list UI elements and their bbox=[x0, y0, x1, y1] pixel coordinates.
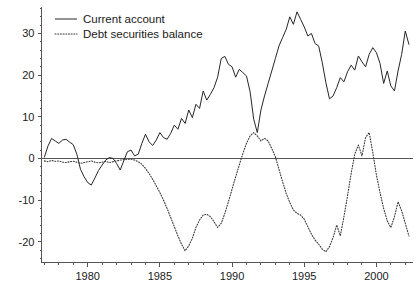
x-tick-label: 1980 bbox=[75, 270, 99, 282]
legend-label-1: Current account bbox=[83, 13, 166, 25]
y-tick-label: 30 bbox=[22, 27, 34, 39]
y-tick-label: 20 bbox=[22, 69, 34, 81]
y-tick-label: -20 bbox=[19, 236, 35, 248]
plot-background bbox=[0, 0, 419, 291]
legend-label-2: Debt securities balance bbox=[83, 28, 203, 40]
x-tick-label: 1990 bbox=[220, 270, 244, 282]
x-tick-label: 1995 bbox=[292, 270, 316, 282]
y-tick-label: 10 bbox=[22, 111, 34, 123]
line-chart: -20-100102030 19801985199019952000 Curre… bbox=[0, 0, 419, 291]
chart-container: -20-100102030 19801985199019952000 Curre… bbox=[0, 0, 419, 291]
x-tick-label: 1985 bbox=[148, 270, 172, 282]
y-tick-label: 0 bbox=[28, 152, 34, 164]
y-tick-label: -10 bbox=[19, 194, 35, 206]
x-tick-label: 2000 bbox=[364, 270, 388, 282]
